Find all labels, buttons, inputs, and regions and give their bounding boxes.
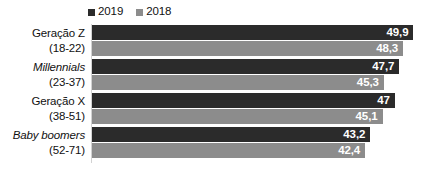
plot-area: Geração Z (18-22) 49,9 48,3 Millennials … — [0, 24, 433, 170]
category-label: Geração X (38-51) — [0, 92, 85, 126]
bar-track: 49,9 48,3 — [92, 24, 433, 58]
bar-track: 47 45,1 — [92, 92, 433, 126]
legend-label: 2018 — [146, 6, 171, 18]
category-name: Geração Z — [32, 26, 85, 41]
bar-track: 47,7 45,3 — [92, 58, 433, 92]
bar-2018[interactable]: 45,3 — [92, 75, 384, 90]
legend-label: 2019 — [98, 6, 123, 18]
category-range: (52-71) — [49, 143, 85, 158]
category-name: Geração X — [31, 94, 85, 109]
bar-value-label: 47,7 — [372, 59, 394, 74]
category-label: Geração Z (18-22) — [0, 24, 85, 58]
category-range: (38-51) — [49, 109, 85, 124]
square-marker-icon — [136, 9, 143, 16]
bar-chart: 2019 2018 Geração Z (18-22) 49,9 48,3 — [0, 0, 433, 170]
bar-group: Baby boomers (52-71) 43,2 42,4 — [0, 126, 433, 160]
category-label: Millennials (23-37) — [0, 58, 85, 92]
bar-2019[interactable]: 43,2 — [92, 127, 370, 142]
bar-value-label: 42,4 — [338, 143, 360, 158]
bar-track: 43,2 42,4 — [92, 126, 433, 160]
legend-item-2019[interactable]: 2019 — [88, 6, 123, 18]
bar-2019[interactable]: 47 — [92, 93, 395, 108]
category-name: Millennials — [33, 60, 85, 75]
bar-value-label: 45,1 — [356, 109, 378, 124]
bar-2019[interactable]: 49,9 — [92, 25, 413, 40]
bar-group: Millennials (23-37) 47,7 45,3 — [0, 58, 433, 92]
category-name: Baby boomers — [13, 128, 85, 143]
bar-group: Geração Z (18-22) 49,9 48,3 — [0, 24, 433, 58]
bar-value-label: 49,9 — [386, 25, 408, 40]
square-marker-icon — [88, 9, 95, 16]
bar-2018[interactable]: 48,3 — [92, 41, 403, 56]
legend-item-2018[interactable]: 2018 — [136, 6, 171, 18]
bar-2018[interactable]: 45,1 — [92, 109, 383, 124]
bar-group: Geração X (38-51) 47 45,1 — [0, 92, 433, 126]
bar-2019[interactable]: 47,7 — [92, 59, 399, 74]
category-range: (23-37) — [49, 75, 85, 90]
bar-value-label: 45,3 — [357, 75, 379, 90]
bar-value-label: 43,2 — [343, 127, 365, 142]
category-label: Baby boomers (52-71) — [0, 126, 85, 160]
bar-2018[interactable]: 42,4 — [92, 143, 365, 158]
chart-legend: 2019 2018 — [88, 3, 171, 21]
bar-value-label: 47 — [377, 93, 390, 108]
category-range: (18-22) — [49, 41, 85, 56]
bar-value-label: 48,3 — [376, 41, 398, 56]
